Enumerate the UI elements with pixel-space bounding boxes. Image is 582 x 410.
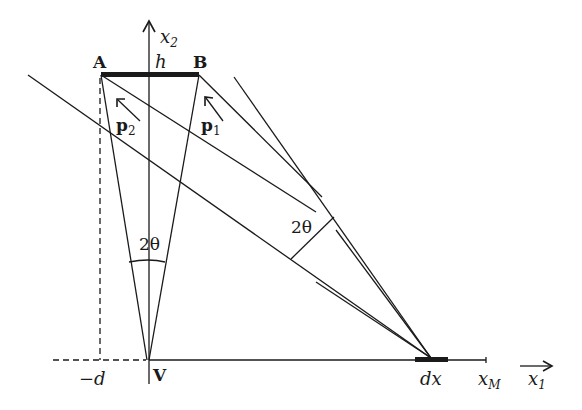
angle-2theta-right: 2θ <box>291 219 312 236</box>
x2-label: x2 <box>160 28 178 46</box>
p1-label: p1 <box>201 117 221 134</box>
h-label: h <box>155 53 167 71</box>
point-B-label: B <box>193 54 207 71</box>
diagram-lines <box>0 0 582 410</box>
minus-d-label: −d <box>79 370 106 388</box>
point-A-label: A <box>93 54 106 71</box>
x1-label: x1 <box>528 370 546 388</box>
diagram-canvas: A B V h x2 x1 xM −d dx p2 p1 2θ 2θ <box>0 0 582 410</box>
xM-label: xM <box>478 370 500 388</box>
long-line-left <box>28 75 431 358</box>
ray-A-dx-upper <box>101 75 316 212</box>
angle-arc-left <box>129 260 165 262</box>
segment-AB <box>101 72 199 77</box>
angle-2theta-left: 2θ <box>139 236 160 253</box>
dx-label: dx <box>420 370 442 388</box>
point-V-label: V <box>153 367 166 384</box>
long-line-right <box>234 77 431 358</box>
ray-A-dx-lower <box>316 282 431 358</box>
p2-label: p2 <box>116 117 136 134</box>
cone-line-VB <box>149 75 199 360</box>
segment-dx <box>415 357 448 362</box>
